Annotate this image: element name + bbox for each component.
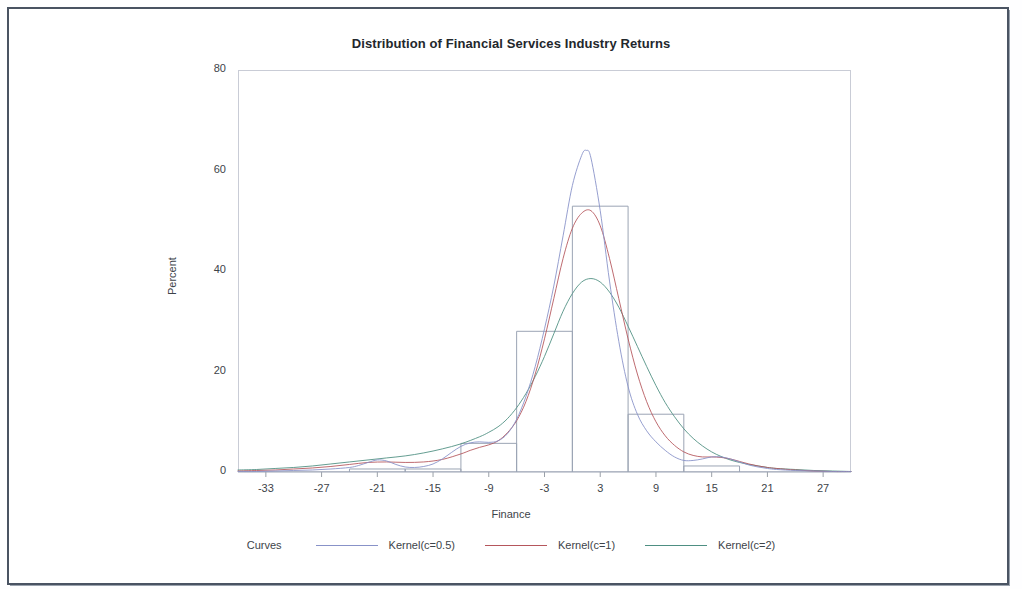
y-tick-label: 80 xyxy=(186,62,226,74)
y-axis-label: Percent xyxy=(166,257,178,295)
x-tick-label: -3 xyxy=(525,482,565,494)
legend-label: Kernel(c=2) xyxy=(718,539,775,551)
chart-legend: Curves Kernel(c=0.5) Kernel(c=1) Kernel(… xyxy=(0,539,1022,551)
x-tick-label: -21 xyxy=(357,482,397,494)
x-tick-label: -27 xyxy=(302,482,342,494)
chart-plot-svg xyxy=(0,0,1022,589)
legend-swatch-icon xyxy=(645,545,707,546)
x-tick-label: 15 xyxy=(692,482,732,494)
x-tick-label: -15 xyxy=(413,482,453,494)
y-tick-label: 0 xyxy=(186,464,226,476)
x-tick-label: 27 xyxy=(803,482,843,494)
legend-title: Curves xyxy=(247,539,282,551)
x-tick-label: -33 xyxy=(246,482,286,494)
legend-label: Kernel(c=1) xyxy=(558,539,615,551)
y-tick-label: 40 xyxy=(186,263,226,275)
axis-tick-marks xyxy=(266,472,823,477)
chart-container: Distribution of Financial Services Indus… xyxy=(0,0,1022,589)
x-axis-label: Finance xyxy=(0,508,1022,520)
y-tick-label: 20 xyxy=(186,364,226,376)
legend-swatch-icon xyxy=(316,545,378,546)
x-tick-label: 3 xyxy=(580,482,620,494)
page-canvas: Distribution of Financial Services Indus… xyxy=(0,0,1022,589)
y-tick-label: 60 xyxy=(186,163,226,175)
x-tick-label: 9 xyxy=(636,482,676,494)
legend-entry-kernel-c1: Kernel(c=1) xyxy=(485,539,615,551)
legend-swatch-icon xyxy=(485,545,547,546)
x-tick-label: -9 xyxy=(469,482,509,494)
kernel-density-curves xyxy=(238,150,851,471)
legend-entry-kernel-c2: Kernel(c=2) xyxy=(645,539,775,551)
legend-label: Kernel(c=0.5) xyxy=(389,539,455,551)
x-tick-label: 21 xyxy=(747,482,787,494)
legend-entry-kernel-c05: Kernel(c=0.5) xyxy=(316,539,455,551)
